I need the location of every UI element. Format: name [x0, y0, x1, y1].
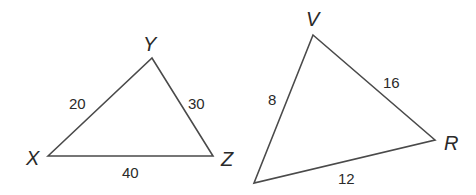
- side-length-vr: 16: [383, 75, 400, 90]
- vertex-label-v: V: [306, 9, 319, 29]
- side-length-yz: 30: [188, 96, 205, 111]
- side-length-v-bottom: 8: [268, 92, 276, 107]
- vertex-label-x: X: [26, 148, 39, 168]
- side-length-xy: 20: [69, 96, 86, 111]
- vertex-label-y: Y: [143, 34, 156, 54]
- vertex-label-r: R: [444, 133, 458, 153]
- triangle-vr: [254, 35, 435, 183]
- side-length-xz: 40: [122, 165, 139, 180]
- side-length-r-bottom: 12: [338, 171, 355, 186]
- vertex-label-z: Z: [221, 149, 233, 169]
